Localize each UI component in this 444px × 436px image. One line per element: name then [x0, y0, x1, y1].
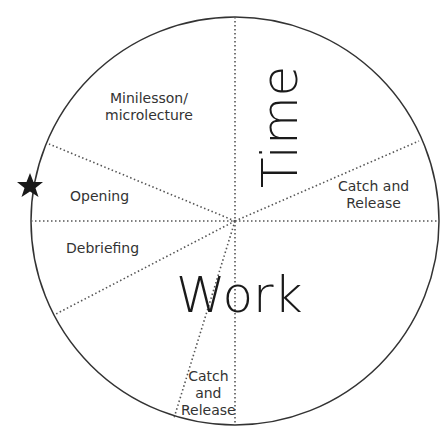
divider-opening-top	[49, 144, 235, 221]
work-label: Work	[176, 270, 303, 320]
segment-label-minilesson: Minilesson/ microlecture	[105, 90, 193, 124]
time-label: Time	[255, 66, 305, 188]
segment-label-debriefing: Debriefing	[66, 240, 139, 257]
segment-label-opening: Opening	[70, 188, 129, 205]
segment-dividers	[31, 17, 439, 425]
star-icon	[17, 173, 43, 197]
segment-label-catch-release-right: Catch and Release	[338, 178, 409, 212]
segment-label-catch-release-bottom: Catch and Release	[181, 368, 236, 419]
